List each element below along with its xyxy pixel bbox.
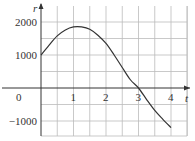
line-chart: 0123420001000−1000 r t — [0, 0, 195, 141]
y-tick-label: 1000 — [15, 49, 38, 61]
x-tick-label: 3 — [136, 91, 142, 103]
x-tick-label: 0 — [16, 91, 22, 103]
x-axis-label: t — [185, 92, 189, 104]
x-tick-label: 1 — [71, 91, 77, 103]
grid — [41, 6, 187, 136]
y-axis-label: r — [33, 2, 38, 14]
x-tick-label: 4 — [168, 91, 174, 103]
y-tick-label: −1000 — [9, 115, 38, 127]
y-tick-label: 2000 — [15, 16, 38, 28]
x-tick-label: 2 — [103, 91, 109, 103]
